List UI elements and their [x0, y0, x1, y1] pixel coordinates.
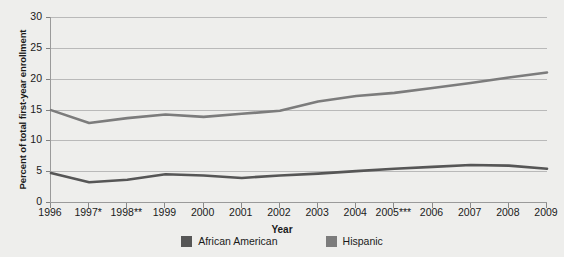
x-tick-label: 2008	[496, 206, 519, 218]
legend-label: African American	[198, 235, 277, 247]
x-tick-label: 1999	[153, 206, 176, 218]
x-tick-label: 2001	[229, 206, 252, 218]
y-tick-label: 5	[14, 164, 42, 176]
series-line	[51, 165, 547, 182]
legend-item[interactable]: Hispanic	[326, 235, 383, 247]
series-line	[51, 73, 547, 124]
legend-swatch-icon	[181, 236, 192, 247]
x-tick-label: 2000	[191, 206, 214, 218]
x-axis-title: Year	[0, 224, 564, 235]
x-tick-label: 2007	[458, 206, 481, 218]
chart-legend: African AmericanHispanic	[0, 235, 564, 247]
chart-figure: Percent of total first-year enrollment 0…	[0, 0, 564, 257]
legend-label: Hispanic	[343, 235, 383, 247]
x-tick-label: 2006	[420, 206, 443, 218]
x-tick-label: 2002	[267, 206, 290, 218]
x-tick-label: 1997*	[74, 206, 101, 218]
legend-swatch-icon	[326, 236, 337, 247]
x-tick-label: 2004	[344, 206, 367, 218]
y-tick-label: 10	[14, 133, 42, 145]
series-lines	[51, 17, 547, 202]
x-tick-label: 2009	[534, 206, 557, 218]
x-tick-label: 1996	[38, 206, 61, 218]
y-tick-label: 25	[14, 41, 42, 53]
x-tick-label: 2005***	[376, 206, 412, 218]
y-tick-label: 30	[14, 10, 42, 22]
legend-item[interactable]: African American	[181, 235, 277, 247]
x-tick-label: 1998**	[111, 206, 143, 218]
y-tick-label: 15	[14, 103, 42, 115]
y-tick-label: 20	[14, 72, 42, 84]
x-tick-label: 2003	[305, 206, 328, 218]
plot-area	[50, 17, 547, 203]
